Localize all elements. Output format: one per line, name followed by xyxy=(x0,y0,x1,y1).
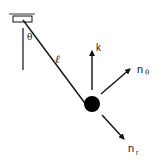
pendulum-diagram: θ ℓ k n θ n r xyxy=(0,0,157,165)
n-theta-subscript: θ xyxy=(145,69,149,77)
pendulum-mass xyxy=(84,96,100,112)
n-theta-vector-arrow xyxy=(101,69,130,94)
length-label: ℓ xyxy=(55,53,60,66)
ceiling-support xyxy=(9,13,35,22)
n-r-label: n xyxy=(128,142,134,154)
n-r-subscript: r xyxy=(136,149,139,156)
n-r-vector-arrow xyxy=(102,115,124,139)
n-theta-label: n xyxy=(137,63,143,75)
k-label: k xyxy=(96,42,102,53)
theta-label: θ xyxy=(27,32,32,42)
